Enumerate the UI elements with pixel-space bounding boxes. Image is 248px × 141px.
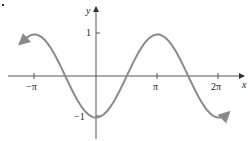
tick-label-neg-pi: −π [26,82,37,92]
y-axis-label: y [86,6,90,16]
tick-label-2pi: 2π [211,82,221,92]
tick-label-pos-1: 1 [86,28,91,38]
x-axis-label: x [242,80,246,90]
tick-label-pi: π [153,82,158,92]
tick-label-neg-1: −1 [74,112,85,122]
chart-plot [0,0,248,141]
